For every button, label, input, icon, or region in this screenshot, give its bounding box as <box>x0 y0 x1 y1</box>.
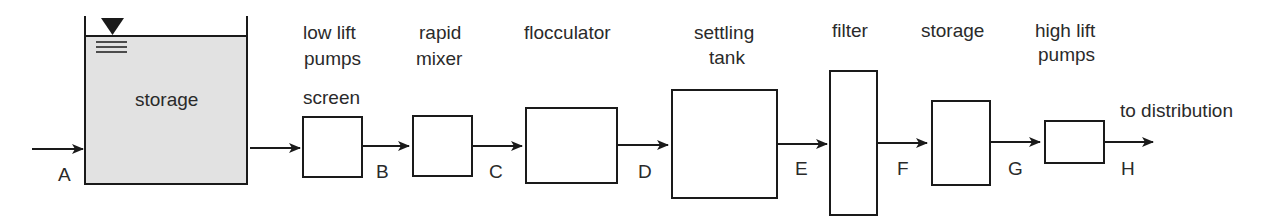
high-lift-pumps-label-line2: pumps <box>1038 42 1095 67</box>
storage-clearwell-label: storage <box>921 18 984 43</box>
to-distribution-label: to distribution <box>1120 98 1233 123</box>
settling-tank-label-line1: settling <box>694 20 754 45</box>
flocculator-label: flocculator <box>524 20 611 45</box>
low-lift-pumps-label-line1: low lift <box>303 20 356 45</box>
point-f-label: F <box>897 158 909 180</box>
water-level-icon <box>101 18 124 35</box>
point-c-label: C <box>489 161 503 183</box>
settling-tank-label-line2: tank <box>709 45 745 70</box>
settling-tank-box <box>672 90 777 198</box>
storage-clearwell-box <box>932 101 990 185</box>
point-e-label: E <box>795 158 808 180</box>
rapid-mixer-label-line2: mixer <box>416 46 462 71</box>
high-lift-pumps-box <box>1045 121 1104 163</box>
filter-box <box>830 71 877 215</box>
low-lift-pumps-label-line2: pumps <box>304 46 361 71</box>
rapid-mixer-label-line1: rapid <box>419 20 461 45</box>
flocculator-box <box>526 108 617 183</box>
point-a-label: A <box>58 164 71 186</box>
point-b-label: B <box>376 161 389 183</box>
point-g-label: G <box>1008 158 1023 180</box>
point-d-label: D <box>638 161 652 183</box>
point-h-label: H <box>1121 158 1135 180</box>
filter-label: filter <box>832 18 868 43</box>
screen-label: screen <box>303 85 360 110</box>
low-lift-pumps-box <box>303 117 362 177</box>
rapid-mixer-box <box>413 116 472 176</box>
storage-reservoir-label: storage <box>135 87 198 112</box>
high-lift-pumps-label-line1: high lift <box>1035 18 1095 43</box>
